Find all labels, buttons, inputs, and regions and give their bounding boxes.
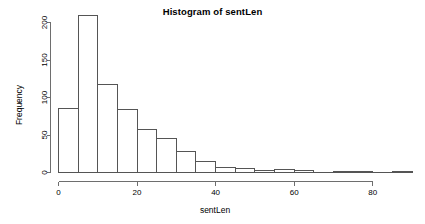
x-axis-tick-label: 40 — [211, 188, 220, 197]
x-axis-tick-label: 60 — [290, 188, 299, 197]
histogram-bar — [216, 167, 236, 172]
histogram-bar — [98, 85, 118, 173]
y-axis: 050100150200 — [40, 15, 51, 174]
histogram-bar — [78, 15, 98, 173]
histogram-bar — [275, 170, 295, 173]
x-axis-tick-label: 80 — [368, 188, 377, 197]
histogram-bar — [137, 129, 157, 173]
histogram-bar — [333, 172, 353, 173]
x-axis-tick-label: 0 — [56, 188, 61, 197]
x-axis: 020406080 — [56, 182, 377, 197]
histogram-bar — [117, 110, 137, 173]
histogram-bar — [176, 152, 196, 173]
bars-group — [59, 15, 413, 173]
y-axis-tick-label: 0 — [40, 170, 49, 175]
histogram-bar — [255, 170, 275, 172]
histogram-bar — [235, 168, 255, 173]
histogram-plot: Histogram of sentLen 050100150200 020406… — [0, 0, 425, 224]
histogram-bar — [314, 172, 334, 173]
histogram-bar — [196, 161, 216, 172]
y-axis-tick-label: 100 — [40, 90, 49, 104]
x-axis-tick-label: 20 — [133, 188, 142, 197]
y-axis-tick-label: 200 — [40, 15, 49, 29]
histogram-bar — [59, 108, 79, 173]
histogram-bar — [353, 172, 373, 173]
y-axis-title: Frequency — [14, 84, 24, 125]
histogram-bar — [373, 172, 393, 173]
x-axis-title: sentLen — [200, 205, 231, 215]
histogram-bar — [157, 138, 177, 173]
y-axis-tick-label: 150 — [40, 53, 49, 67]
plot-canvas: 050100150200 020406080 Frequency sentLen — [0, 0, 425, 224]
histogram-bar — [392, 172, 412, 173]
histogram-bar — [294, 170, 314, 172]
y-axis-tick-label: 50 — [40, 130, 49, 139]
